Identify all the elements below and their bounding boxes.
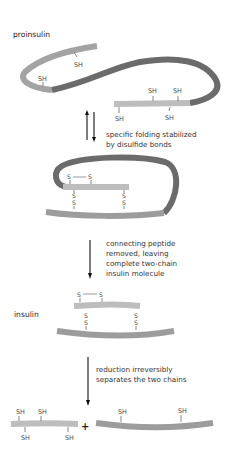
down-arrow-icon <box>86 357 90 406</box>
sh-group: SH <box>21 434 30 442</box>
sh-group: SH <box>16 408 25 416</box>
s-atom: S <box>67 173 71 180</box>
sh-group: SH <box>165 114 174 122</box>
separated-a-chain <box>11 423 78 424</box>
reversible-arrow-icon <box>85 110 96 142</box>
step3-text-line1: reduction irreversibly <box>96 365 173 374</box>
step3-text-line2: separates the two chains <box>96 375 187 384</box>
insulin-label: insulin <box>14 310 39 319</box>
proinsulin-label: proinsulin <box>13 30 50 39</box>
insulin-b-chain <box>57 331 174 336</box>
s-atom: S <box>72 199 76 206</box>
step2-text-line4: insulin molecule <box>106 269 165 278</box>
s-atom: S <box>134 319 138 326</box>
step1-text-line2: by disulfide bonds <box>106 140 172 149</box>
insulin-folding-diagram: proinsulin SH SH SH SH SH SH specific fo… <box>0 0 229 462</box>
sh-group: SH <box>115 115 124 123</box>
down-arrow-icon <box>88 240 92 279</box>
separated-b-chain <box>96 423 213 427</box>
s-atom: S <box>99 291 103 298</box>
step2-text-line3: complete two-chain <box>106 259 177 268</box>
s-atom: S <box>77 291 81 298</box>
s-atom: S <box>88 173 92 180</box>
insulin-a-chain <box>74 305 140 307</box>
sh-group: SH <box>148 87 157 95</box>
sh-group: SH <box>65 434 74 442</box>
proinsulin-a-chain <box>114 103 190 104</box>
sh-group: SH <box>178 407 187 415</box>
sh-group: SH <box>173 87 182 95</box>
sh-group: SH <box>38 75 47 83</box>
s-atom: S <box>84 312 88 319</box>
s-atom: S <box>122 199 126 206</box>
s-atom: S <box>72 192 76 199</box>
s-atom: S <box>122 192 126 199</box>
sh-group: SH <box>74 61 83 69</box>
step2-text-line1: connecting peptide <box>106 239 176 248</box>
folded-b-chain <box>46 212 164 216</box>
s-atom: S <box>84 319 88 326</box>
plus-sign: + <box>81 421 89 432</box>
s-atom: S <box>134 312 138 319</box>
proinsulin-b-chain <box>23 46 97 90</box>
sh-group: SH <box>38 408 47 416</box>
step1-text-line1: specific folding stabilized <box>106 130 197 139</box>
sh-group: SH <box>118 408 127 416</box>
step2-text-line2: removed, leaving <box>106 249 169 258</box>
